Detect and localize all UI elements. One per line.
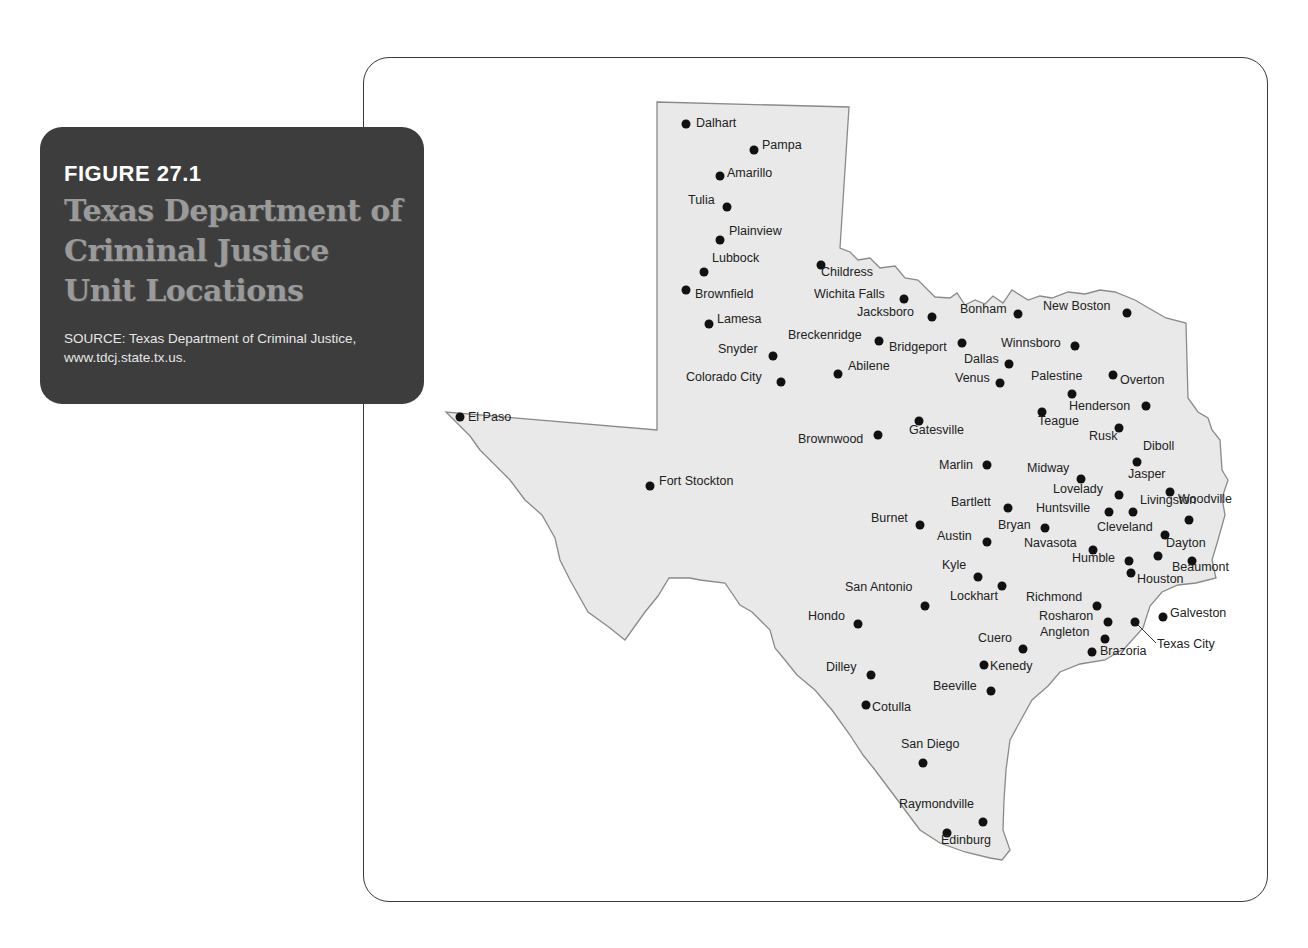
- city-label: Edinburg: [941, 833, 991, 847]
- city-marker-dot-icon: [1068, 390, 1077, 399]
- city-marker-dot-icon: [919, 759, 928, 768]
- city-marker-dot-icon: [974, 573, 983, 582]
- city-label: Angleton: [1040, 625, 1089, 639]
- city-marker-dot-icon: [1154, 552, 1163, 561]
- city-marker-dot-icon: [646, 482, 655, 491]
- city-marker-dot-icon: [1093, 602, 1102, 611]
- city-marker-dot-icon: [1019, 645, 1028, 654]
- city-label: Bridgeport: [889, 340, 947, 354]
- figure-source: SOURCE: Texas Department of Criminal Jus…: [64, 329, 406, 367]
- city-label: Marlin: [939, 458, 973, 472]
- city-label: Huntsville: [1036, 501, 1090, 515]
- city-marker-dot-icon: [682, 286, 691, 295]
- city-marker-dot-icon: [1185, 516, 1194, 525]
- city-label: Cleveland: [1097, 520, 1153, 534]
- city-label: Galveston: [1170, 606, 1226, 620]
- city-marker-dot-icon: [1014, 310, 1023, 319]
- city-marker-dot-icon: [682, 120, 691, 129]
- city-label: Kenedy: [990, 659, 1032, 673]
- city-marker-dot-icon: [1125, 557, 1134, 566]
- city-marker-dot-icon: [1109, 371, 1118, 380]
- city-marker-dot-icon: [716, 236, 725, 245]
- city-label: Austin: [937, 529, 972, 543]
- city-label: Brownwood: [798, 432, 863, 446]
- city-marker-dot-icon: [1004, 504, 1013, 513]
- city-label: Lockhart: [950, 589, 998, 603]
- city-label: Childress: [821, 265, 873, 279]
- city-marker-dot-icon: [1005, 360, 1014, 369]
- city-label: Wichita Falls: [814, 287, 885, 301]
- texas-city-leader-line: [1137, 624, 1156, 643]
- city-label: Colorado City: [686, 370, 762, 384]
- city-marker-dot-icon: [958, 339, 967, 348]
- city-label: Dalhart: [696, 116, 736, 130]
- city-marker-dot-icon: [998, 582, 1007, 591]
- city-label: Raymondville: [899, 797, 974, 811]
- city-marker-dot-icon: [777, 378, 786, 387]
- city-marker-dot-icon: [1104, 618, 1113, 627]
- city-marker-dot-icon: [996, 379, 1005, 388]
- city-marker-dot-icon: [705, 320, 714, 329]
- city-label: Cotulla: [872, 700, 911, 714]
- city-marker-dot-icon: [1127, 569, 1136, 578]
- city-label: Dallas: [964, 352, 999, 366]
- city-label: Bonham: [960, 302, 1007, 316]
- city-label: Dayton: [1166, 536, 1206, 550]
- city-label: Bartlett: [951, 495, 991, 509]
- city-label: Winnsboro: [1001, 336, 1061, 350]
- city-label: Palestine: [1031, 369, 1082, 383]
- figure-title: Texas Department of Criminal Justice Uni…: [64, 191, 406, 311]
- city-marker-dot-icon: [1071, 342, 1080, 351]
- city-label: Teague: [1038, 414, 1079, 428]
- city-label: Rosharon: [1039, 609, 1093, 623]
- city-label: Lovelady: [1053, 482, 1103, 496]
- city-label: Henderson: [1069, 399, 1130, 413]
- city-label: New Boston: [1043, 299, 1110, 313]
- city-marker-dot-icon: [987, 687, 996, 696]
- texas-state-outline: [446, 102, 1228, 860]
- city-marker-dot-icon: [1101, 635, 1110, 644]
- city-label: Plainview: [729, 224, 782, 238]
- city-label: Cuero: [978, 631, 1012, 645]
- city-label: Brownfield: [695, 287, 753, 301]
- city-label: Gatesville: [909, 423, 964, 437]
- city-marker-dot-icon: [980, 661, 989, 670]
- city-label: Pampa: [762, 138, 802, 152]
- city-marker-dot-icon: [1129, 508, 1138, 517]
- city-marker-dot-icon: [1041, 524, 1050, 533]
- city-label: Dilley: [826, 660, 857, 674]
- city-marker-dot-icon: [1115, 491, 1124, 500]
- city-label: Midway: [1027, 461, 1069, 475]
- city-marker-dot-icon: [867, 671, 876, 680]
- city-label: Tulia: [688, 193, 715, 207]
- city-label: Snyder: [718, 342, 758, 356]
- city-marker-dot-icon: [1105, 508, 1114, 517]
- city-label: Richmond: [1026, 590, 1082, 604]
- city-label: Kyle: [942, 558, 966, 572]
- city-marker-dot-icon: [1133, 458, 1142, 467]
- city-marker-dot-icon: [983, 461, 992, 470]
- city-label: Rusk: [1089, 429, 1117, 443]
- city-marker-dot-icon: [1088, 648, 1097, 657]
- city-label: Breckenridge: [788, 328, 862, 342]
- city-marker-dot-icon: [769, 352, 778, 361]
- city-marker-dot-icon: [900, 295, 909, 304]
- city-label: Navasota: [1024, 536, 1077, 550]
- city-label: Amarillo: [727, 166, 772, 180]
- city-label: Venus: [955, 371, 990, 385]
- city-marker-dot-icon: [921, 602, 930, 611]
- city-marker-dot-icon: [874, 431, 883, 440]
- city-label: Bryan: [998, 518, 1031, 532]
- city-label: Humble: [1072, 551, 1115, 565]
- city-label: San Antonio: [845, 580, 912, 594]
- figure-caption-box: FIGURE 27.1 Texas Department of Criminal…: [40, 127, 424, 404]
- city-marker-dot-icon: [700, 268, 709, 277]
- city-label: Brazoria: [1100, 644, 1147, 658]
- city-label: Jasper: [1128, 467, 1166, 481]
- city-marker-dot-icon: [1131, 618, 1140, 627]
- city-marker-dot-icon: [1159, 613, 1168, 622]
- city-label: Abilene: [848, 359, 890, 373]
- city-marker-dot-icon: [916, 521, 925, 530]
- city-marker-dot-icon: [862, 701, 871, 710]
- city-label: Fort Stockton: [659, 474, 733, 488]
